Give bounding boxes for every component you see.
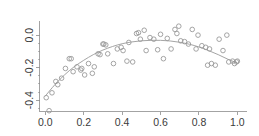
data-point	[213, 63, 218, 68]
data-point	[217, 37, 222, 42]
data-point	[194, 47, 199, 52]
x-tick-label-4: 0.8	[192, 116, 207, 128]
data-point	[50, 91, 55, 96]
data-point	[130, 60, 135, 65]
x-tick-label-1: 0.2	[76, 116, 91, 128]
y-tick-label-1: -0.2	[23, 58, 35, 76]
data-point	[165, 36, 170, 41]
data-point	[105, 52, 110, 57]
data-point	[47, 108, 52, 113]
data-point	[82, 73, 87, 78]
fit-curve	[45, 40, 237, 96]
data-point	[86, 61, 91, 66]
data-point	[144, 48, 149, 53]
data-point	[125, 59, 130, 64]
x-tick-label-2: 0.4	[115, 116, 130, 128]
data-point	[225, 33, 230, 38]
data-point	[196, 33, 201, 38]
data-point-markers	[44, 24, 240, 113]
data-point	[158, 32, 163, 37]
data-point	[152, 37, 157, 42]
data-point	[90, 71, 95, 76]
y-axis-tick-labels: 0.0-0.2-0.4	[23, 28, 35, 109]
plot-canvas: 0.0-0.2-0.4 0.00.20.40.60.81.0	[0, 0, 259, 136]
data-point	[142, 28, 147, 33]
data-point	[176, 24, 181, 29]
data-point	[169, 47, 174, 52]
data-point	[221, 48, 226, 53]
y-tick-label-0: 0.0	[23, 28, 35, 43]
data-point	[155, 47, 160, 52]
x-tick-label-0: 0.0	[38, 116, 53, 128]
data-point	[111, 61, 116, 66]
y-axis-ticks	[36, 35, 39, 108]
data-point	[190, 27, 195, 32]
y-tick-label-2: -0.4	[23, 91, 35, 109]
data-point	[161, 56, 166, 61]
data-point	[63, 66, 68, 71]
data-point	[175, 31, 180, 36]
x-axis-tick-labels: 0.00.20.40.60.81.0	[38, 116, 245, 128]
data-point	[92, 65, 97, 70]
scatter-plot-figure: 0.0-0.2-0.4 0.00.20.40.60.81.0	[0, 0, 259, 136]
x-tick-label-5: 1.0	[230, 116, 245, 128]
data-point	[71, 69, 76, 74]
x-axis-ticks	[45, 112, 237, 115]
data-point	[44, 95, 49, 100]
x-tick-label-3: 0.6	[153, 116, 168, 128]
